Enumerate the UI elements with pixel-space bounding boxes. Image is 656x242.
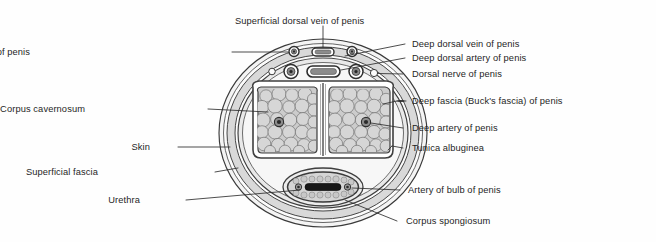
label-tunica-albuginea: Tunica albuginea xyxy=(412,143,484,154)
anatomy-diagram xyxy=(0,0,656,242)
corpus-cavernosum-left xyxy=(255,87,320,157)
deep-dorsal-artery-left xyxy=(284,65,298,79)
label-superficial-dorsal-artery: Superficial dorsal artery of penis xyxy=(0,47,30,58)
label-urethra: Urethra xyxy=(108,195,140,206)
superficial-dorsal-vein xyxy=(312,48,334,56)
label-skin: Skin xyxy=(132,142,151,153)
corpus-cavernosum-right xyxy=(328,87,393,157)
label-superficial-dorsal-vein: Superficial dorsal vein of penis xyxy=(235,16,364,27)
label-corpus-spongiosum: Corpus spongiosum xyxy=(406,216,490,227)
superficial-dorsal-artery-left xyxy=(289,47,299,57)
deep-artery-left xyxy=(274,117,283,126)
label-deep-fascia: Deep fascia (Buck's fascia) of penis xyxy=(412,96,563,107)
label-dorsal-nerve: Dorsal nerve of penis xyxy=(412,69,502,80)
corpus-spongiosum xyxy=(283,168,363,206)
leader-dorsal-nerve xyxy=(378,74,403,75)
urethral-lumen xyxy=(305,184,341,191)
figure-canvas: Superficial dorsal vein of penis Superfi… xyxy=(0,0,656,242)
label-artery-of-bulb: Artery of bulb of penis xyxy=(408,185,501,196)
artery-of-bulb-left xyxy=(295,184,301,190)
dorsal-nerve-left xyxy=(269,68,276,75)
label-deep-artery: Deep artery of penis xyxy=(412,123,498,134)
deep-artery-right xyxy=(361,117,370,126)
label-superficial-fascia: Superficial fascia xyxy=(26,167,98,178)
label-deep-dorsal-artery: Deep dorsal artery of penis xyxy=(412,53,526,64)
deep-dorsal-vein xyxy=(307,66,340,77)
dorsal-nerve-right xyxy=(370,69,377,76)
artery-of-bulb-right xyxy=(344,184,350,190)
label-deep-dorsal-vein: Deep dorsal vein of penis xyxy=(412,39,519,50)
label-corpus-cavernosum: Corpus cavernosum xyxy=(0,104,85,115)
